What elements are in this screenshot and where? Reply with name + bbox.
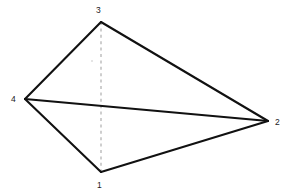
edge-4-2: [25, 99, 268, 121]
edge-4-3: [25, 22, 101, 99]
edge-4-1: [25, 99, 101, 172]
scan-speck: [91, 60, 93, 62]
edge-1-2: [101, 121, 268, 172]
vertex-label-3: 3: [96, 6, 101, 15]
vertex-label-2: 2: [275, 118, 280, 127]
vertex-label-1: 1: [97, 181, 102, 190]
vertex-label-4: 4: [11, 95, 16, 104]
figure-canvas: 3 4 2 1: [0, 0, 291, 196]
edge-3-2: [101, 22, 268, 121]
diagram-svg: [0, 0, 291, 196]
edge-group-solid: [25, 22, 268, 172]
